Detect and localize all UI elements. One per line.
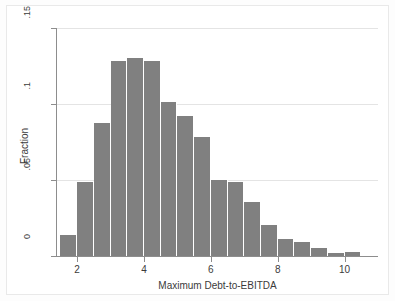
x-axis-line	[56, 256, 378, 257]
y-axis-tick	[51, 256, 56, 257]
histogram-bar	[144, 61, 161, 256]
histogram-bar	[94, 123, 111, 256]
y-axis-tick-label: 0	[21, 234, 33, 278]
histogram-bar	[244, 202, 261, 256]
y-axis-tick-label: .15	[21, 6, 33, 50]
x-axis-tick	[278, 257, 279, 262]
histogram-figure: Fraction 0.05.1.15 246810 Maximum Debt-t…	[0, 0, 395, 301]
histogram-bar	[228, 182, 245, 256]
y-axis-tick-label-wrapper: .1	[5, 98, 49, 110]
graph-region: Fraction 0.05.1.15 246810 Maximum Debt-t…	[6, 5, 389, 295]
histogram-bar	[294, 242, 311, 256]
histogram-bar	[211, 180, 228, 256]
histogram-bar	[77, 182, 94, 256]
x-axis-tick-label: 2	[62, 264, 92, 275]
histogram-bar	[328, 253, 345, 256]
y-axis-tick-label-wrapper: .15	[5, 22, 49, 34]
gridline-y	[57, 104, 378, 105]
y-axis-tick	[51, 104, 56, 105]
y-axis-tick-label-wrapper: 0	[5, 250, 49, 262]
histogram-bar	[177, 116, 194, 256]
plot-area	[57, 28, 378, 256]
y-axis-tick-label: .1	[21, 82, 33, 126]
y-axis-tick-label-wrapper: .05	[5, 174, 49, 186]
histogram-bar	[127, 58, 144, 256]
gridline-y	[57, 28, 378, 29]
histogram-bar	[60, 235, 77, 256]
histogram-bar	[161, 102, 178, 256]
histogram-bar	[311, 248, 328, 256]
x-axis-tick	[211, 257, 212, 262]
histogram-bar	[194, 137, 211, 256]
histogram-bar	[345, 252, 362, 256]
y-axis-tick	[51, 180, 56, 181]
histogram-bar	[111, 61, 128, 256]
x-axis-tick-label: 6	[196, 264, 226, 275]
histogram-bar	[278, 239, 295, 256]
y-axis-tick-label: .05	[21, 158, 33, 202]
x-axis-tick	[77, 257, 78, 262]
x-axis-label: Maximum Debt-to-EBITDA	[57, 280, 378, 291]
x-axis-tick-label: 8	[263, 264, 293, 275]
x-axis-tick	[345, 257, 346, 262]
histogram-bar	[261, 225, 278, 256]
x-axis-tick	[144, 257, 145, 262]
x-axis-tick-label: 10	[330, 264, 360, 275]
x-axis-tick-label: 4	[129, 264, 159, 275]
y-axis-tick	[51, 28, 56, 29]
